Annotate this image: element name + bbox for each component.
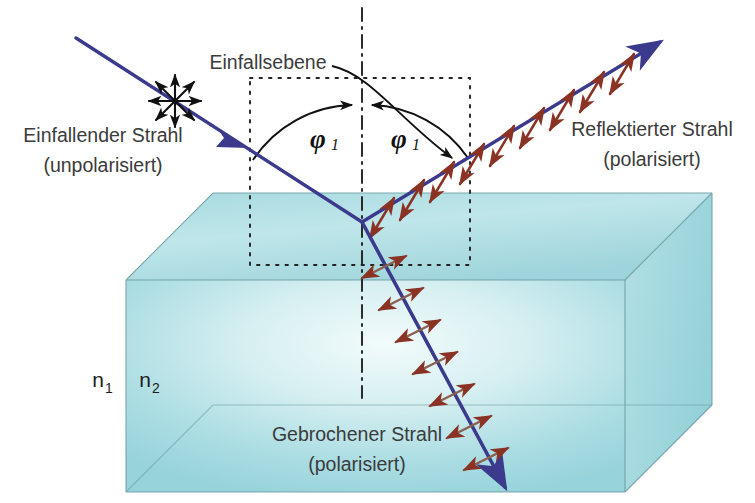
optics-diagram-figure: Einfallsebene Einfallender Strahl (unpol… bbox=[0, 0, 755, 503]
reflected-ray-label-line2: (polarisiert) bbox=[603, 148, 701, 170]
refracted-ray-label-line2: (polarisiert) bbox=[308, 453, 406, 475]
refractive-index-n1: n 1 bbox=[92, 368, 113, 396]
angle-label-incident: φ 1 bbox=[310, 124, 339, 154]
angle-incident-symbol: φ bbox=[310, 124, 326, 154]
index-n1-symbol: n bbox=[92, 368, 104, 391]
reflected-ray-label-line1: Reflektierter Strahl bbox=[571, 118, 732, 140]
refracted-ray-label-line1: Gebrochener Strahl bbox=[272, 423, 442, 445]
medium-block bbox=[126, 193, 712, 492]
incidence-plane-label: Einfallsebene bbox=[209, 51, 326, 73]
index-n2-subscript: 2 bbox=[152, 380, 160, 396]
index-n2-symbol: n bbox=[139, 368, 151, 391]
unpolarized-starburst bbox=[149, 75, 201, 127]
angle-reflected-symbol: φ bbox=[391, 124, 407, 154]
angle-incident-subscript: 1 bbox=[331, 136, 339, 153]
diagram-canvas: Einfallsebene Einfallender Strahl (unpol… bbox=[0, 0, 755, 503]
index-n1-subscript: 1 bbox=[105, 380, 113, 396]
incident-ray-direction-arrow bbox=[216, 129, 248, 148]
angle-reflected-subscript: 1 bbox=[412, 136, 420, 153]
block-top-face bbox=[126, 193, 712, 280]
incident-ray-label-line1: Einfallender Strahl bbox=[23, 124, 182, 146]
incident-ray-label-line2: (unpolarisiert) bbox=[43, 154, 162, 176]
angle-arcs bbox=[253, 105, 468, 160]
